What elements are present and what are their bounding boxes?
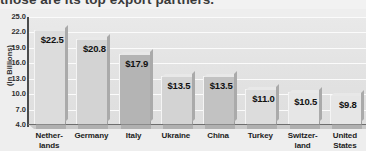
x-tick-label: UnitedStates xyxy=(324,131,366,150)
x-tick-label: Nether-lands xyxy=(28,131,70,150)
gridline xyxy=(28,17,366,18)
x-axis-categories: Nether-landsGermanyItalyUkraineChinaTurk… xyxy=(28,131,366,151)
x-tick-label: Turkey xyxy=(239,131,281,141)
bar-foot xyxy=(78,124,108,129)
x-tick-label-line: Italy xyxy=(113,131,155,141)
x-tick-label: Germany xyxy=(70,131,112,141)
bar-chart: 25.022.019.016.013.010.07.04.0 (in Billi… xyxy=(0,9,366,151)
x-tick-label-line: Ukraine xyxy=(155,131,197,141)
bar-value-label: $9.8 xyxy=(332,99,364,110)
bar-top-face xyxy=(162,74,195,77)
y-tick-label: 7.0 xyxy=(2,106,26,114)
x-tick-label: Italy xyxy=(113,131,155,141)
bar-value-label: $13.5 xyxy=(163,80,195,91)
bar-value-label: $13.5 xyxy=(205,80,237,91)
bar-top-face xyxy=(246,87,279,90)
y-axis-title: (in Billions) xyxy=(5,36,14,96)
bar-top-face xyxy=(120,52,153,55)
bar-top-face xyxy=(35,28,68,31)
bar-top-face xyxy=(331,93,364,96)
caption-text: those are its top export partners. xyxy=(0,0,366,9)
bar-foot xyxy=(290,124,320,129)
bar-value-label: $17.9 xyxy=(121,58,153,69)
bar-top-face xyxy=(289,90,322,93)
x-tick-label-line: Germany xyxy=(70,131,112,141)
bar-foot xyxy=(121,124,151,129)
x-tick-label-line: land xyxy=(282,141,324,151)
x-tick-label: Switzer-land xyxy=(282,131,324,150)
bar-foot xyxy=(247,124,277,129)
x-tick-label-line: China xyxy=(197,131,239,141)
x-tick-label: China xyxy=(197,131,239,141)
chart-screenshot: those are its top export partners. 25.02… xyxy=(0,0,366,151)
bar-value-label: $10.5 xyxy=(290,96,322,107)
y-tick-label: 25.0 xyxy=(2,13,26,21)
bar-foot xyxy=(205,124,235,129)
bar-value-label: $11.0 xyxy=(247,93,279,104)
x-tick-label-line: Switzer- xyxy=(282,131,324,141)
bar-foot xyxy=(163,124,193,129)
x-tick-label-line: United xyxy=(324,131,366,141)
bar-foot xyxy=(36,124,66,129)
bar-value-label: $22.5 xyxy=(36,34,68,45)
x-tick-label-line: States xyxy=(324,141,366,151)
bar-top-face xyxy=(77,37,110,40)
y-axis-line xyxy=(27,17,29,127)
x-tick-label-line: Nether- xyxy=(28,131,70,141)
bar-side-face xyxy=(234,71,237,122)
y-tick-label: 4.0 xyxy=(2,121,26,129)
gridline xyxy=(28,32,366,33)
x-tick-label-line: Turkey xyxy=(239,131,281,141)
bar-foot xyxy=(332,124,362,129)
bar-value-label: $20.8 xyxy=(78,43,110,54)
x-tick-label: Ukraine xyxy=(155,131,197,141)
x-tick-label-line: lands xyxy=(28,141,70,151)
bar-side-face xyxy=(192,71,195,122)
bar-top-face xyxy=(204,74,237,77)
